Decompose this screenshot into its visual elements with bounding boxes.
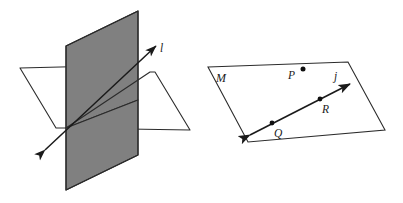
geometry-figure-container: l M j P Q R — [0, 0, 403, 203]
line-j — [250, 84, 350, 135]
plane-m-label: M — [215, 71, 227, 85]
point-p-dot — [301, 67, 306, 72]
point-r-dot — [318, 97, 323, 102]
intersecting-planes-figure: l — [20, 11, 190, 190]
point-q-label: Q — [274, 127, 283, 139]
point-r-label: R — [321, 103, 329, 115]
point-p-label: P — [287, 69, 295, 81]
line-l-label: l — [160, 42, 163, 54]
geometry-figures-svg: l M j P Q R — [0, 0, 403, 203]
point-q-dot — [270, 121, 275, 126]
line-j-label: j — [332, 70, 337, 83]
plane-m-outline — [208, 62, 385, 142]
plane-m-with-line-j-figure: M j P Q R — [208, 62, 385, 142]
